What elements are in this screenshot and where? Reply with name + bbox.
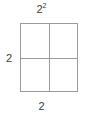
top-label-exponent: 2 [43, 2, 47, 9]
bottom-label: 2 [0, 100, 87, 112]
top-label-text: 22 [36, 3, 46, 15]
area-model-figure: 22 2 2 [0, 0, 87, 119]
horizontal-divider-line [21, 58, 77, 59]
square-grid [20, 23, 78, 92]
top-label: 22 [0, 3, 87, 15]
bottom-label-text: 2 [38, 100, 44, 112]
left-label: 2 [6, 52, 12, 64]
